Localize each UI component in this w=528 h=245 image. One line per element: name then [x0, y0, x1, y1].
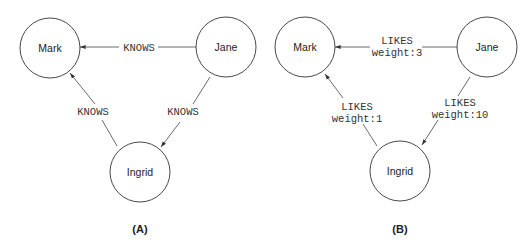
node-label: Ingrid — [387, 165, 413, 177]
node-label: Jane — [215, 41, 238, 53]
node-label: Mark — [38, 42, 62, 54]
diagram-b: LIKES weight:3 LIKES weight:10 LIKES wei… — [275, 17, 517, 235]
caption-a: (A) — [132, 223, 148, 235]
edge-ingrid-mark: LIKES weight:1 — [325, 74, 382, 146]
graph-diagrams: KNOWS KNOWS KNOWS Mark Jane Ingrid (A) — [0, 0, 528, 245]
edge-jane-mark: LIKES weight:3 — [335, 35, 457, 59]
edge-label: LIKES — [381, 35, 413, 47]
edge-label: LIKES — [341, 101, 373, 113]
edge-jane-mark: KNOWS — [80, 42, 196, 54]
edge-label: KNOWS — [77, 106, 109, 118]
node-ingrid[interactable]: Ingrid — [110, 142, 170, 202]
edge-label: KNOWS — [167, 106, 199, 118]
edge-label: LIKES — [444, 97, 476, 109]
edge-jane-ingrid: KNOWS — [161, 77, 210, 147]
edge-property: weight:3 — [372, 47, 422, 59]
edge-jane-ingrid: LIKES weight:10 — [422, 77, 488, 145]
node-jane[interactable]: Jane — [457, 17, 517, 77]
edge-ingrid-mark: KNOWS — [70, 73, 117, 146]
edge-property: weight:10 — [432, 109, 489, 121]
node-mark[interactable]: Mark — [20, 18, 80, 78]
edge-property: weight:1 — [332, 113, 382, 125]
node-mark[interactable]: Mark — [275, 17, 335, 77]
node-ingrid[interactable]: Ingrid — [370, 141, 430, 201]
diagram-a: KNOWS KNOWS KNOWS Mark Jane Ingrid (A) — [20, 17, 256, 235]
node-label: Ingrid — [127, 166, 153, 178]
node-label: Mark — [293, 41, 317, 53]
node-jane[interactable]: Jane — [196, 17, 256, 77]
edge-label: KNOWS — [123, 42, 155, 54]
caption-b: (B) — [392, 223, 408, 235]
node-label: Jane — [476, 41, 499, 53]
